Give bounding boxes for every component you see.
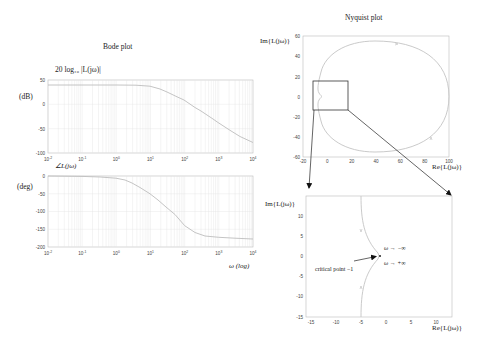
svg-text:10-1: 10-1 (78, 156, 86, 162)
svg-text:100: 100 (445, 159, 453, 164)
svg-text:0: 0 (42, 174, 45, 179)
svg-text:104: 104 (249, 250, 256, 256)
svg-text:5: 5 (410, 320, 413, 325)
bode-phase-axes: 0 -50 -100 -150 -200 10-2 10-1 100 101 1… (36, 174, 257, 256)
svg-text:-10: -10 (333, 320, 340, 325)
svg-text:10-2: 10-2 (44, 156, 52, 162)
svg-text:104: 104 (249, 156, 256, 162)
critical-point-marker (379, 255, 381, 257)
nyquist-zoom-axes: critical point −1 ω → −∞ ω → +∞ 10 5 0 -… (296, 196, 452, 325)
svg-text:102: 102 (181, 156, 188, 162)
svg-text:-150: -150 (36, 227, 46, 232)
svg-text:0: 0 (300, 254, 303, 259)
svg-text:10: 10 (433, 320, 439, 325)
svg-text:5: 5 (300, 234, 303, 239)
svg-text:0: 0 (385, 320, 388, 325)
omega-pos-inf-label: ω → +∞ (384, 260, 406, 266)
phase-y-ticks: 0 -50 -100 -150 -200 (36, 174, 46, 250)
svg-text:0: 0 (326, 159, 329, 164)
critical-point-label: critical point −1 (315, 266, 353, 272)
svg-text:-50: -50 (38, 192, 45, 197)
svg-text:0: 0 (297, 95, 300, 100)
svg-text:-200: -200 (36, 245, 46, 250)
svg-text:-40: -40 (293, 135, 300, 140)
svg-text:10-2: 10-2 (44, 250, 52, 256)
bode-magnitude-axes: 50 0 -50 -100 10-2 10-1 100 101 102 103 … (36, 78, 257, 162)
svg-text:50: 50 (40, 78, 46, 83)
nyquist-x-ticks: -20 0 20 40 60 80 100 (300, 159, 454, 164)
svg-text:40: 40 (373, 159, 379, 164)
svg-text:-15: -15 (296, 315, 303, 320)
svg-text:-10: -10 (296, 294, 303, 299)
nyquist-axes: 60 40 20 0 -20 -40 -60 -20 0 20 40 60 80… (293, 34, 453, 164)
svg-text:103: 103 (215, 156, 222, 162)
svg-text:-5: -5 (299, 274, 304, 279)
zoom-y-ticks: 10 5 0 -5 -10 -15 (296, 214, 303, 320)
phase-x-ticks: 10-2 10-1 100 101 102 103 104 (44, 250, 257, 256)
svg-text:101: 101 (147, 156, 154, 162)
svg-text:-100: -100 (36, 151, 46, 156)
svg-text:100: 100 (113, 156, 120, 162)
svg-text:102: 102 (181, 250, 188, 256)
svg-text:0: 0 (42, 102, 45, 107)
svg-text:103: 103 (215, 250, 222, 256)
svg-text:-100: -100 (36, 209, 46, 214)
svg-text:20: 20 (295, 75, 301, 80)
svg-text:60: 60 (398, 159, 404, 164)
svg-text:10-1: 10-1 (78, 250, 86, 256)
svg-text:100: 100 (113, 250, 120, 256)
svg-text:80: 80 (422, 159, 428, 164)
figure-canvas: 50 0 -50 -100 10-2 10-1 100 101 102 103 … (0, 0, 491, 351)
svg-text:40: 40 (295, 54, 301, 59)
svg-text:60: 60 (295, 34, 301, 39)
omega-neg-inf-label: ω → −∞ (384, 245, 406, 251)
svg-text:-5: -5 (359, 320, 364, 325)
magnitude-y-ticks: 50 0 -50 -100 (36, 78, 46, 156)
svg-text:-20: -20 (293, 115, 300, 120)
zoom-x-ticks: -15 -10 -5 0 5 10 (308, 320, 439, 325)
magnitude-x-ticks: 10-2 10-1 100 101 102 103 104 (44, 156, 257, 162)
svg-text:-15: -15 (308, 320, 315, 325)
svg-text:10: 10 (298, 214, 304, 219)
svg-text:20: 20 (349, 159, 355, 164)
svg-text:-20: -20 (300, 159, 307, 164)
svg-text:-50: -50 (38, 127, 45, 132)
svg-text:101: 101 (147, 250, 154, 256)
nyquist-y-ticks: 60 40 20 0 -20 -40 -60 (293, 34, 300, 160)
